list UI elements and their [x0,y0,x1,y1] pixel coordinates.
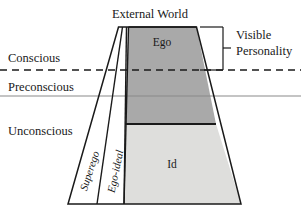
unconscious-label: Unconscious [8,124,73,138]
visible-personality-label-line1: Visible [236,28,272,42]
diagram-canvas: External World Conscious Preconscious Un… [0,0,301,214]
ego-label: Ego [153,36,172,49]
visible-personality-bracket [200,27,231,70]
id-label: Id [167,158,177,170]
external-world-label: External World [112,7,189,21]
conscious-label: Conscious [8,51,60,65]
preconscious-label: Preconscious [8,80,74,94]
visible-personality-label-line2: Personality [236,44,293,58]
freud-psychic-apparatus-diagram: External World Conscious Preconscious Un… [0,0,301,214]
